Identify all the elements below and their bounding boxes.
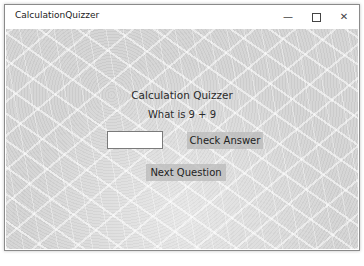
minimize-button[interactable]: — bbox=[273, 7, 303, 27]
question-text: What is 9 + 9 bbox=[6, 109, 358, 120]
app-heading: Calculation Quizzer bbox=[6, 89, 358, 101]
close-icon: ✕ bbox=[340, 11, 348, 22]
close-button[interactable]: ✕ bbox=[329, 7, 359, 27]
check-answer-button[interactable]: Check Answer bbox=[187, 132, 263, 149]
maximize-icon bbox=[312, 13, 321, 22]
app-window: CalculationQuizzer — ✕ Calculation Quizz… bbox=[4, 4, 360, 251]
maximize-button[interactable] bbox=[301, 7, 331, 27]
window-title: CalculationQuizzer bbox=[15, 10, 99, 20]
client-area: Calculation Quizzer What is 9 + 9 Check … bbox=[6, 29, 358, 249]
minimize-icon: — bbox=[283, 11, 293, 22]
title-bar[interactable]: CalculationQuizzer — ✕ bbox=[5, 5, 359, 29]
answer-input[interactable] bbox=[107, 131, 163, 149]
next-question-button[interactable]: Next Question bbox=[146, 164, 226, 181]
